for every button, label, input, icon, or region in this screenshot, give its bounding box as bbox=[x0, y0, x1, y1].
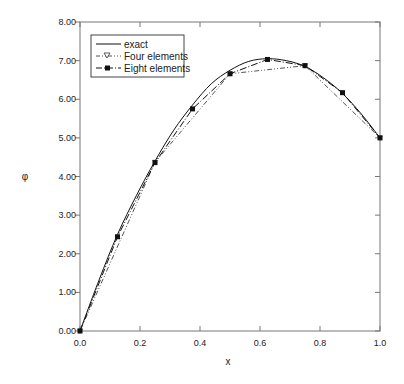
y-axis-label: φ bbox=[22, 171, 29, 182]
legend-label-eight: Eight elements bbox=[124, 63, 190, 74]
square-marker bbox=[378, 135, 383, 140]
square-marker bbox=[78, 329, 83, 334]
series-eight-elements bbox=[80, 59, 380, 331]
y-tick-label: 7.00 bbox=[58, 56, 76, 66]
x-tick-label: 0.4 bbox=[194, 338, 207, 348]
legend-label-four: Four elements bbox=[124, 51, 188, 62]
y-tick-label: 8.00 bbox=[58, 17, 76, 27]
series-four-elements bbox=[80, 66, 380, 331]
square-marker bbox=[190, 106, 195, 111]
x-axis-label: x bbox=[226, 356, 231, 367]
y-tick-label: 2.00 bbox=[58, 249, 76, 259]
square-marker bbox=[115, 234, 120, 239]
y-tick-label: 0.00 bbox=[58, 326, 76, 336]
series-layer bbox=[78, 57, 383, 334]
legend-label-exact: exact bbox=[124, 39, 148, 50]
x-tick-label: 0.8 bbox=[314, 338, 327, 348]
line-chart: 0.00.20.40.60.81.00.001.002.003.004.005.… bbox=[0, 0, 404, 384]
y-tick-label: 4.00 bbox=[58, 172, 76, 182]
square-marker-icon bbox=[105, 66, 110, 71]
y-tick-label: 1.00 bbox=[58, 287, 76, 297]
square-marker bbox=[153, 160, 158, 165]
square-marker bbox=[340, 90, 345, 95]
y-tick-label: 6.00 bbox=[58, 94, 76, 104]
square-marker bbox=[303, 63, 308, 68]
square-marker bbox=[228, 71, 233, 76]
x-tick-label: 1.0 bbox=[374, 338, 387, 348]
series-exact bbox=[80, 59, 380, 331]
y-tick-label: 5.00 bbox=[58, 133, 76, 143]
x-tick-label: 0.0 bbox=[74, 338, 87, 348]
square-marker bbox=[265, 57, 270, 62]
y-tick-label: 3.00 bbox=[58, 210, 76, 220]
x-tick-label: 0.2 bbox=[134, 338, 147, 348]
legend: exact Four elements Eight elements bbox=[91, 35, 190, 77]
x-tick-label: 0.6 bbox=[254, 338, 267, 348]
